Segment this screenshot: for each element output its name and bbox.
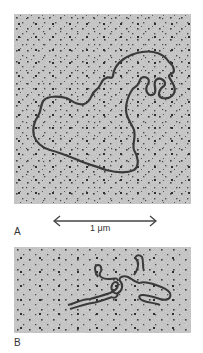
dna-micrograph-a (14, 14, 191, 204)
panel-label-a: A (14, 226, 21, 237)
scale-bar-label: 1 μm (90, 223, 110, 233)
micrograph-panel-a (14, 14, 191, 204)
panel-label-b: B (14, 337, 21, 348)
dna-micrograph-b (14, 247, 191, 333)
micrograph-panel-b (14, 247, 191, 333)
